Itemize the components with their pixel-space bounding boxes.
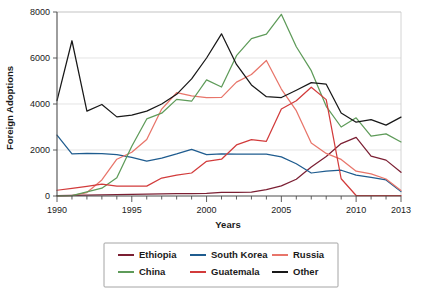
chart-canvas: 199019952000200520102013 020004000600080… — [0, 0, 431, 302]
legend-label-ethiopia: Ethiopia — [139, 249, 177, 260]
y-axis-title: Foreign Adoptions — [4, 66, 15, 150]
legend-label-other: Other — [293, 266, 319, 277]
series-line-russia — [57, 61, 401, 196]
legend-label-china: China — [139, 266, 166, 277]
series-line-guatemala — [57, 87, 401, 195]
y-axis: 02000400060008000 — [30, 7, 57, 201]
x-axis: 199019952000200520102013 — [47, 196, 411, 215]
gridlines — [57, 12, 401, 150]
y-tick-label: 2000 — [30, 145, 50, 155]
x-tick-label: 2010 — [346, 205, 366, 215]
x-tick-label: 1990 — [47, 205, 67, 215]
x-axis-title: Years — [215, 219, 240, 230]
y-tick-label: 8000 — [30, 7, 50, 17]
x-tick-label: 2000 — [197, 205, 217, 215]
legend-label-guatemala: Guatemala — [211, 266, 260, 277]
x-tick-label: 2013 — [391, 205, 411, 215]
legend-label-russia: Russia — [293, 249, 325, 260]
y-tick-label: 6000 — [30, 53, 50, 63]
foreign-adoptions-line-chart: 199019952000200520102013 020004000600080… — [0, 0, 431, 302]
y-tick-label: 0 — [45, 191, 50, 201]
series-line-china — [57, 14, 401, 195]
x-tick-label: 1995 — [122, 205, 142, 215]
chart-legend: EthiopiaSouth KoreaRussiaChinaGuatemalaO… — [104, 243, 338, 287]
y-tick-label: 4000 — [30, 99, 50, 109]
data-series — [57, 14, 401, 195]
x-tick-label: 2005 — [271, 205, 291, 215]
legend-label-south-korea: South Korea — [211, 249, 268, 260]
series-line-other — [57, 34, 401, 125]
